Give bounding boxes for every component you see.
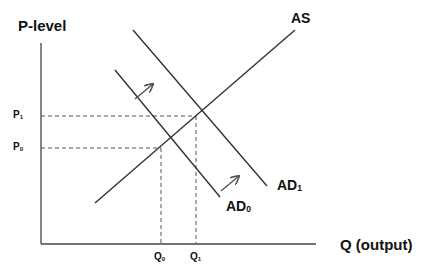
as-label: AS (291, 11, 310, 25)
ad1-curve (133, 30, 267, 186)
shift-arrow-icon (221, 176, 239, 191)
ad0-label: AD0 (226, 199, 251, 214)
ad-as-diagram (0, 0, 421, 273)
shift-arrow-icon (135, 84, 153, 99)
ad1-label: AD1 (277, 178, 302, 193)
x-axis-label: Q (output) (340, 237, 412, 252)
q1-label: Q1 (190, 252, 201, 262)
y-axis-label: P-level (18, 18, 66, 33)
p0-label: P0 (13, 142, 23, 152)
p1-label: P1 (13, 110, 23, 120)
ad0-curve (115, 70, 220, 197)
q0-label: Q0 (154, 252, 165, 262)
